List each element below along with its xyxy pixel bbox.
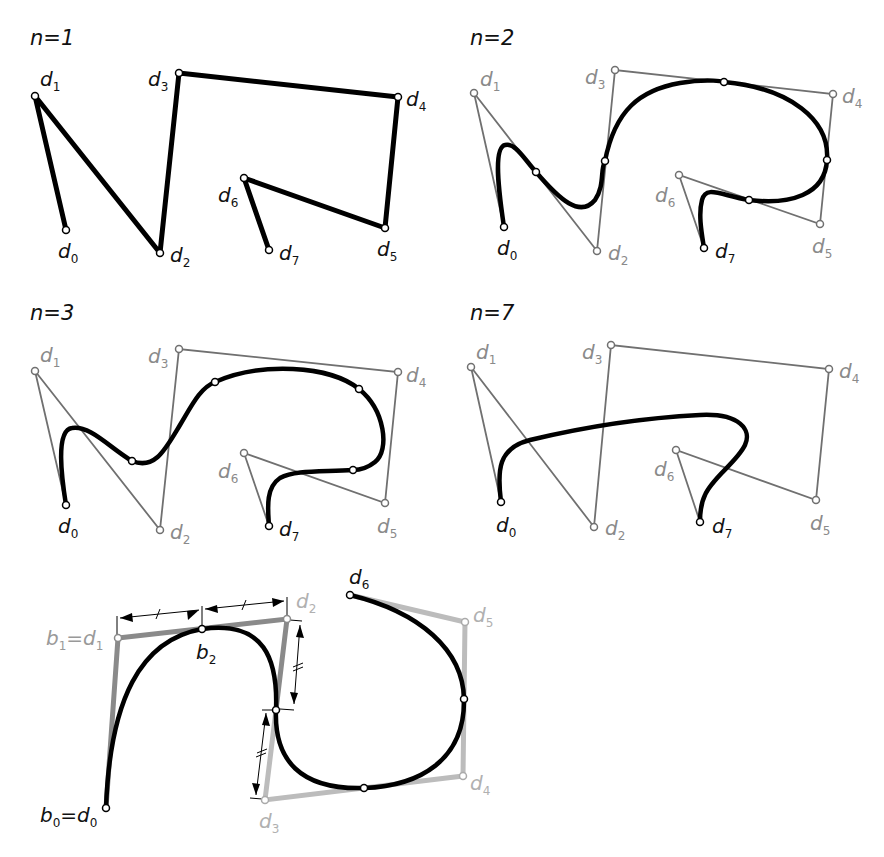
svg-text:d4: d4 [406, 87, 426, 114]
spline-curve [498, 80, 827, 248]
svg-text:d0: d0 [58, 239, 78, 266]
panel-bezier-decomposition: b0=d0 b1=d1 b2 d2 d3 d4 d5 d6 [40, 565, 493, 836]
svg-text:d0: d0 [58, 514, 78, 541]
panel-n7: n=7 d0 d1 d2 d3 d4 d5 d6 d7 [468, 301, 860, 543]
panel-n1: n=1 d0 d1 d2 d3 d4 d5 d6 d7 [30, 26, 426, 270]
svg-text:d1: d1 [40, 343, 60, 370]
svg-text:d1: d1 [476, 340, 496, 367]
knot-points [199, 626, 468, 792]
control-polygon [471, 345, 829, 527]
point-labels: d0 d1 d2 d3 d4 d5 d6 d7 [480, 65, 862, 268]
svg-text:d0: d0 [497, 236, 517, 263]
svg-text:d3: d3 [148, 344, 168, 371]
svg-text:d5: d5 [810, 511, 830, 538]
svg-text:d5: d5 [473, 603, 493, 630]
svg-text:d4: d4 [470, 771, 490, 798]
svg-text:b2: b2 [196, 640, 216, 667]
svg-text:d6: d6 [655, 183, 675, 210]
svg-text:d7: d7 [279, 241, 299, 268]
svg-text:d4: d4 [406, 363, 426, 390]
svg-text:d6: d6 [349, 565, 369, 592]
svg-text:d4: d4 [842, 84, 862, 111]
knot-points [498, 499, 704, 526]
svg-text:d7: d7 [279, 517, 299, 544]
svg-text:d2: d2 [608, 241, 628, 268]
spline-curve [61, 369, 383, 526]
svg-text:d2: d2 [605, 516, 625, 543]
point-labels: d0 d1 d2 d3 d4 d5 d6 d7 [476, 340, 859, 543]
panel-n3: n=3 d0 d1 d2 d3 d4 d5 d6 d7 [30, 301, 426, 547]
control-points [32, 346, 402, 534]
svg-text:d3: d3 [585, 65, 605, 92]
panel-title: n=7 [470, 301, 515, 325]
svg-text:d3: d3 [259, 809, 279, 836]
spline-curve [499, 415, 747, 522]
svg-text:d7: d7 [712, 514, 732, 541]
svg-text:d6: d6 [218, 459, 238, 486]
svg-text:d6: d6 [218, 183, 238, 210]
panel-title: n=1 [30, 26, 74, 50]
svg-text:b1=d1: b1=d1 [46, 626, 103, 653]
svg-text:d3: d3 [148, 67, 168, 94]
knot-points [63, 379, 363, 530]
diagram-canvas: n=1 d0 d1 d2 d3 d4 d5 d6 d7 n=2 [0, 0, 884, 857]
panel-n2: n=2 d0 d1 d2 d3 d4 d5 d6 d7 [470, 26, 862, 268]
panel-title: n=3 [30, 301, 74, 325]
svg-text:d0: d0 [496, 513, 516, 540]
svg-text:b0=d0: b0=d0 [40, 803, 97, 830]
svg-text:d3: d3 [582, 340, 602, 367]
b-spline-degree-diagram: n=1 d0 d1 d2 d3 d4 d5 d6 d7 n=2 [0, 0, 884, 857]
svg-text:d6: d6 [654, 457, 674, 484]
svg-text:d1: d1 [40, 67, 60, 94]
svg-text:d7: d7 [715, 239, 735, 266]
knot-points [501, 79, 831, 252]
point-labels: d0 d1 d2 d3 d4 d5 d6 d7 [40, 67, 426, 270]
svg-text:d2: d2 [296, 589, 316, 616]
svg-text:d5: d5 [377, 237, 397, 264]
svg-text:d1: d1 [480, 67, 500, 94]
control-polygon [35, 73, 398, 253]
svg-text:d2: d2 [170, 520, 190, 547]
svg-text:d5: d5 [377, 514, 397, 541]
svg-text:d2: d2 [170, 243, 190, 270]
panel-title: n=2 [470, 26, 514, 50]
svg-text:d4: d4 [839, 359, 859, 386]
svg-text:d5: d5 [812, 234, 832, 261]
control-polygon [35, 349, 398, 530]
control-points [468, 342, 833, 531]
